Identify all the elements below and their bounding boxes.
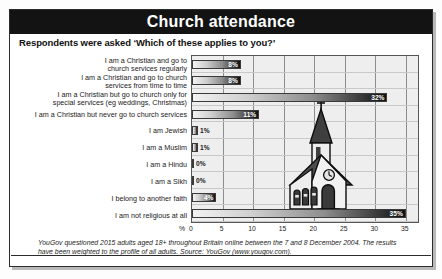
bar-value-label: 8% (228, 61, 238, 69)
bar: 35% (192, 209, 406, 218)
question-text: Respondents were asked ‘Which of these a… (19, 37, 275, 48)
row-separator (192, 221, 418, 222)
bar-value-label: 0% (196, 177, 206, 185)
bar-value-label: 32% (371, 94, 384, 102)
category-label: I am a Christian and go to church servic… (19, 57, 187, 72)
axis-tick-label: 20 (309, 225, 317, 232)
axis-tick-label: 10 (248, 225, 256, 232)
bar: 8% (192, 76, 241, 85)
bar-value-label: 1% (200, 127, 210, 135)
church-illustration (276, 99, 368, 219)
bar: 0% (192, 159, 194, 168)
axis-unit-label: % (179, 225, 185, 232)
row-separator (192, 72, 418, 73)
bar: 4% (192, 193, 216, 202)
plot-area: 8%8%32%11%1%1%0%0%4%35% (191, 55, 419, 223)
bar-value-label: 1% (200, 144, 210, 152)
category-axis: I am a Christian and go to church servic… (19, 55, 190, 223)
value-axis: 05101520253035 (191, 224, 419, 235)
category-label: I am a Muslim (19, 144, 187, 152)
row-separator (192, 88, 418, 89)
category-label: I am Jewish (19, 127, 187, 135)
bar-value-label: 8% (228, 77, 238, 85)
bar-value-label: 11% (243, 111, 256, 119)
chart-area: I am a Christian and go to church servic… (19, 55, 423, 233)
footer-divider (11, 255, 431, 256)
bar-value-label: 35% (390, 210, 403, 218)
source-note: YouGov questioned 2015 adults aged 18+ t… (38, 238, 410, 256)
category-label: I am a Sikh (19, 178, 187, 186)
bar: 1% (192, 143, 198, 152)
page-title: Church attendance (10, 13, 432, 31)
gridline (406, 56, 407, 222)
bar: 32% (192, 93, 387, 102)
category-label: I am a Christian and go to church servic… (19, 74, 187, 89)
axis-tick-label: 30 (370, 225, 378, 232)
axis-tick-label: 5 (220, 225, 224, 232)
category-label: I belong to another faith (19, 195, 187, 203)
chart-panel: Church attendance Respondents were asked… (9, 9, 433, 267)
bar-value-label: 0% (196, 160, 206, 168)
category-label: I am a Christian but never go to church … (19, 111, 187, 119)
title-bar: Church attendance (10, 10, 432, 34)
bar-value-label: 4% (204, 194, 214, 202)
category-label: I am a Christian but go to church only f… (19, 91, 187, 106)
bar: 1% (192, 126, 198, 135)
axis-tick-label: 15 (279, 225, 287, 232)
category-label: I am a Hindu (19, 161, 187, 169)
bar: 0% (192, 176, 194, 185)
screenshot-root: Church attendance Respondents were asked… (0, 0, 442, 279)
axis-tick-label: 35 (401, 225, 409, 232)
axis-tick-label: 0 (189, 225, 193, 232)
gridline (375, 56, 376, 222)
category-label: I am not religious at all (19, 212, 187, 220)
axis-tick-label: 25 (340, 225, 348, 232)
bar: 8% (192, 60, 241, 69)
bar: 11% (192, 110, 259, 119)
gridline (253, 56, 254, 222)
